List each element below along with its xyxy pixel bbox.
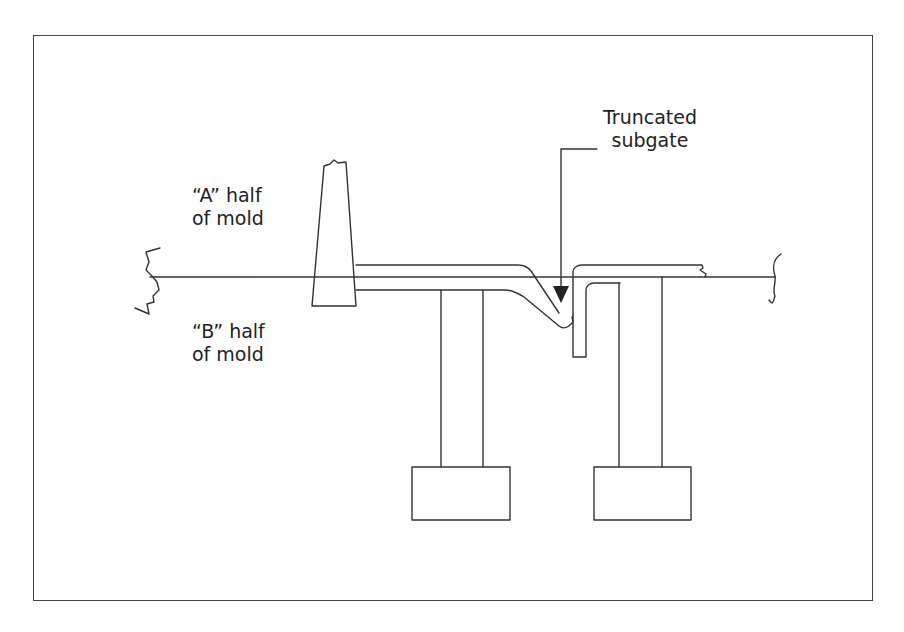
b-half-label: “B” half of mold: [192, 320, 265, 366]
a-half-label: “A” half of mold: [192, 184, 264, 230]
runner-bottom: [356, 290, 573, 328]
callout-arrowhead: [553, 286, 569, 303]
part-cavity-outer: [573, 283, 620, 357]
left-break-mark: [135, 248, 160, 314]
sprue: [312, 160, 356, 306]
diagram-drawing: [0, 0, 904, 632]
ejector-plate-left: [412, 467, 510, 520]
right-break-mark: [769, 254, 781, 303]
truncated-subgate-label: Truncated subgate: [600, 106, 700, 152]
callout-leader: [561, 149, 597, 290]
ejector-plate-right: [594, 467, 691, 520]
runner-top: [356, 265, 559, 313]
mold-diagram: “A” half of mold “B” half of mold Trunca…: [0, 0, 904, 632]
part-cavity-top: [573, 265, 706, 315]
